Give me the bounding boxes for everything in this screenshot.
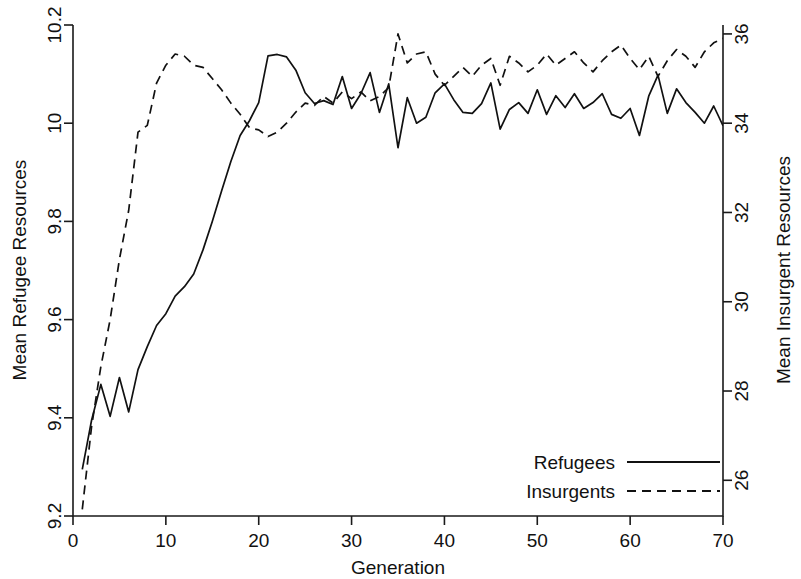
series-refugees <box>82 54 723 469</box>
x-tick-label: 50 <box>527 530 548 551</box>
legend-label-refugees: Refugees <box>534 452 615 473</box>
line-chart: 010203040506070 9.29.49.69.81010.2 26283… <box>0 0 801 579</box>
x-tick-label: 20 <box>248 530 269 551</box>
y-tick-label-right: 36 <box>731 23 752 44</box>
y-tick-label-right: 34 <box>731 112 752 134</box>
y-tick-label-left: 9.8 <box>44 208 65 234</box>
chart-legend: RefugeesInsurgents <box>526 452 720 502</box>
series-group <box>82 34 723 509</box>
y-axis-right-ticks: 262830323436 <box>723 23 752 491</box>
x-tick-label: 40 <box>434 530 455 551</box>
plot-frame <box>73 25 723 516</box>
y-tick-label-left: 10 <box>44 113 65 134</box>
y-tick-label-right: 30 <box>731 291 752 312</box>
x-tick-label: 10 <box>155 530 176 551</box>
y-tick-label-left: 9.4 <box>44 404 65 431</box>
legend-label-insurgents: Insurgents <box>526 481 615 502</box>
x-tick-label: 0 <box>68 530 79 551</box>
y-tick-label-right: 28 <box>731 380 752 401</box>
chart-page: 010203040506070 9.29.49.69.81010.2 26283… <box>0 0 801 579</box>
y-tick-label-left: 9.2 <box>44 503 65 529</box>
x-axis-title: Generation <box>351 557 445 578</box>
y-tick-label-left: 9.6 <box>44 306 65 332</box>
x-tick-label: 70 <box>712 530 733 551</box>
y-axis-left-ticks: 9.29.49.69.81010.2 <box>44 7 73 530</box>
x-axis-ticks: 010203040506070 <box>68 516 734 551</box>
x-tick-label: 30 <box>341 530 362 551</box>
y-tick-label-left: 10.2 <box>44 7 65 44</box>
y-axis-right-title: Mean Insurgent Resources <box>773 156 794 384</box>
x-tick-label: 60 <box>620 530 641 551</box>
y-axis-left-title: Mean Refugee Resources <box>9 160 30 381</box>
y-tick-label-right: 26 <box>731 470 752 491</box>
y-tick-label-right: 32 <box>731 202 752 223</box>
series-insurgents <box>82 34 723 509</box>
